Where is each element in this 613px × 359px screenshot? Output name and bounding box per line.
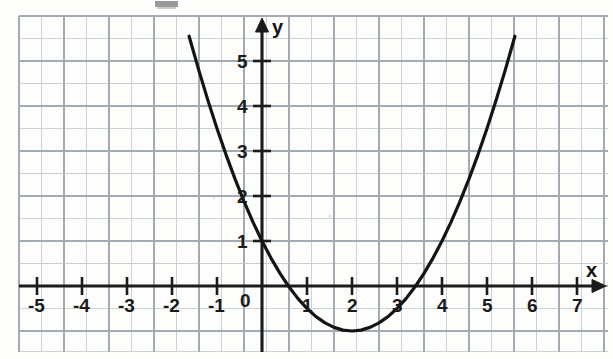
y-tick-label-3: 3 xyxy=(237,142,248,161)
graph-figure: -5 -4 -3 -2 -1 1 2 3 4 5 6 7 1 2 3 4 5 0… xyxy=(0,0,613,359)
x-tick-label--3: -3 xyxy=(118,296,135,315)
y-tick-label-5: 5 xyxy=(237,52,248,71)
x-tick-label-4: 4 xyxy=(437,296,448,315)
y-tick-label-2: 2 xyxy=(237,187,248,206)
y-axis-label: y xyxy=(272,17,283,37)
x-tick-label--5: -5 xyxy=(28,296,45,315)
y-tick-label-4: 4 xyxy=(237,97,248,116)
y-tick-label-1: 1 xyxy=(237,232,248,251)
x-tick-label-7: 7 xyxy=(572,296,583,315)
x-tick-label--1: -1 xyxy=(208,296,225,315)
x-tick-label--4: -4 xyxy=(73,296,90,315)
x-tick-label-3: 3 xyxy=(392,296,403,315)
x-tick-label-1: 1 xyxy=(302,296,313,315)
origin-label: 0 xyxy=(240,291,251,310)
x-tick-label--2: -2 xyxy=(163,296,180,315)
x-axis-label: x xyxy=(586,260,597,280)
x-tick-label-6: 6 xyxy=(527,296,538,315)
x-tick-label-5: 5 xyxy=(482,296,493,315)
x-tick-label-2: 2 xyxy=(347,296,358,315)
